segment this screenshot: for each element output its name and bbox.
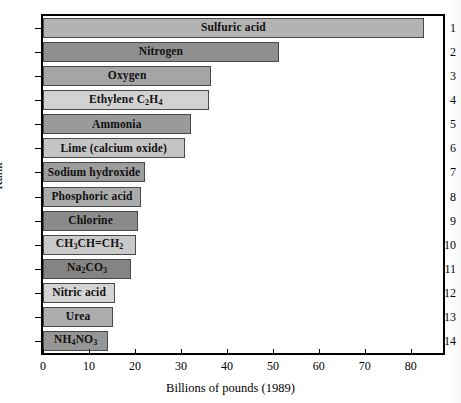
y-axis-tick (35, 76, 41, 77)
bar-label: Ethylene C2H4 (85, 94, 167, 107)
y-axis-tick (35, 28, 41, 29)
y-axis-tick-label: 9 (427, 215, 461, 227)
x-axis-tick (89, 349, 90, 355)
x-axis-tick-label: 10 (69, 360, 109, 372)
x-axis-tick-label: 60 (299, 360, 339, 372)
x-axis-tick (365, 349, 366, 355)
bar[interactable]: Oxygen (43, 66, 211, 86)
x-axis-tick (181, 349, 182, 355)
bar-label: Na2CO3 (63, 262, 111, 275)
x-axis-tick (43, 349, 44, 355)
bar[interactable]: Na2CO3 (43, 259, 131, 279)
y-axis-tick (35, 269, 41, 270)
bar-label: Nitrogen (135, 46, 187, 58)
bar[interactable]: Sodium hydroxide (43, 162, 145, 182)
bar[interactable]: Nitrogen (43, 42, 279, 62)
bar[interactable]: Phosphoric acid (43, 187, 141, 207)
y-axis-tick-label: 14 (427, 335, 461, 347)
y-axis-tick-label: 5 (427, 118, 461, 130)
x-axis-tick (411, 349, 412, 355)
bar-label: Sulfuric acid (197, 22, 270, 34)
y-axis-tick (35, 293, 41, 294)
y-axis-tick (35, 100, 41, 101)
bar[interactable]: Urea (43, 307, 113, 327)
y-axis-tick (35, 245, 41, 246)
x-axis-title: Billions of pounds (1989) (0, 381, 461, 396)
y-axis-tick (35, 197, 41, 198)
bar[interactable]: Lime (calcium oxide) (43, 138, 185, 158)
bars-layer: Sulfuric acidNitrogenOxygenEthylene C2H4… (43, 16, 443, 353)
y-axis-tick (35, 221, 41, 222)
y-axis-tick-label: 13 (427, 311, 461, 323)
x-axis-tick (319, 349, 320, 355)
y-axis-tick-label: 2 (427, 46, 461, 58)
y-axis-tick-label: 8 (427, 191, 461, 203)
bar[interactable]: Ethylene C2H4 (43, 90, 209, 110)
y-axis-tick-label: 4 (427, 94, 461, 106)
y-axis-tick (35, 172, 41, 173)
y-axis-tick-label: 10 (427, 239, 461, 251)
y-axis-tick-label: 6 (427, 142, 461, 154)
bar-label: Chlorine (64, 215, 117, 227)
x-axis-tick (227, 349, 228, 355)
y-axis-tick-label: 1 (427, 22, 461, 34)
bar-label: Phosphoric acid (47, 191, 136, 203)
y-axis-tick (35, 341, 41, 342)
y-axis-tick-label: 12 (427, 287, 461, 299)
x-axis-tick-label: 50 (253, 360, 293, 372)
x-axis-tick-label: 0 (23, 360, 63, 372)
bar[interactable]: Chlorine (43, 211, 138, 231)
y-axis-tick-label: 3 (427, 70, 461, 82)
y-axis-tick-label: 7 (427, 166, 461, 178)
x-axis-tick (135, 349, 136, 355)
bar-label: Sodium hydroxide (44, 167, 145, 179)
bar[interactable]: NH4NO3 (43, 331, 108, 351)
bar[interactable]: Nitric acid (43, 283, 115, 303)
bar-label: Urea (62, 311, 95, 323)
y-axis-tick-label: 11 (427, 263, 461, 275)
bar[interactable]: Ammonia (43, 114, 191, 134)
x-axis-tick (273, 349, 274, 355)
x-axis-tick-label: 80 (391, 360, 431, 372)
bar-label: Nitric acid (48, 287, 110, 299)
bar[interactable]: Sulfuric acid (43, 18, 424, 38)
bar-chart-figure: Sulfuric acidNitrogenOxygenEthylene C2H4… (0, 0, 461, 403)
bar-label: CH3CH=CH2 (52, 238, 128, 251)
x-axis-tick-label: 30 (161, 360, 201, 372)
bar-label: NH4NO3 (50, 334, 101, 347)
x-axis-tick-label: 40 (207, 360, 247, 372)
y-axis-tick (35, 124, 41, 125)
bar-label: Lime (calcium oxide) (57, 143, 171, 155)
bar[interactable]: CH3CH=CH2 (43, 235, 136, 255)
y-axis-title: Rank (0, 162, 6, 189)
bar-label: Oxygen (104, 70, 151, 82)
y-axis-tick (35, 148, 41, 149)
y-axis-tick (35, 317, 41, 318)
y-axis-tick (35, 52, 41, 53)
x-axis-tick-label: 20 (115, 360, 155, 372)
x-axis-tick-label: 70 (345, 360, 385, 372)
bar-label: Ammonia (88, 119, 146, 131)
